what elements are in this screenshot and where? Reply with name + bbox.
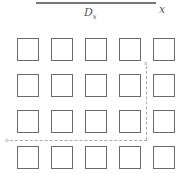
grid-square — [85, 146, 107, 169]
grid-square — [85, 110, 107, 133]
grid-square — [17, 74, 39, 97]
grid-square — [51, 38, 73, 61]
grid-square — [153, 110, 175, 133]
grid-square — [119, 38, 141, 61]
grid-square — [119, 146, 141, 169]
grid-square — [119, 74, 141, 97]
horizontal-dashed-guide — [10, 140, 147, 141]
grid-square — [17, 146, 39, 169]
grid-square — [85, 74, 107, 97]
top-axis-line — [36, 2, 156, 4]
vertical-dashed-guide — [146, 66, 147, 140]
grid-square — [51, 74, 73, 97]
grid-square — [51, 146, 73, 169]
axis-label-x: x — [159, 4, 165, 15]
grid-square — [85, 38, 107, 61]
grid-square — [153, 146, 175, 169]
vertical-guide-label: x — [144, 60, 147, 66]
grid-square — [17, 38, 39, 61]
grid-square — [153, 74, 175, 97]
grid-square — [119, 110, 141, 133]
grid-square — [153, 38, 175, 61]
grid-square — [17, 110, 39, 133]
horizontal-guide-label: o — [5, 137, 9, 143]
grid-square — [51, 110, 73, 133]
axis-label-dx: Dx — [84, 7, 97, 23]
